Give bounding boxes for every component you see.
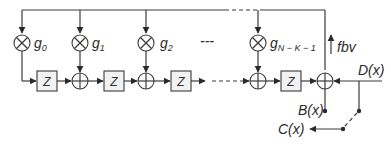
- multiplier-g0: g0: [14, 35, 47, 53]
- lfsr-diagram: g0 g1 g2 --- gN − K − 1 Z Z Z Z: [0, 0, 391, 144]
- label-g0: g0: [34, 35, 47, 53]
- delay-2: Z: [104, 71, 124, 91]
- adder-1: [72, 73, 88, 89]
- parity-label: B(x): [298, 102, 324, 118]
- input-label: D(x): [358, 62, 384, 78]
- output-label: C(x): [278, 121, 304, 137]
- multiplier-g1: g1: [72, 35, 105, 53]
- feedback-label: fbv: [337, 39, 357, 55]
- svg-text:Z: Z: [109, 75, 118, 89]
- adder-last: [250, 73, 266, 89]
- delay-last: Z: [281, 71, 301, 91]
- feedback-bus: [22, 10, 325, 70]
- adder-2: [138, 73, 154, 89]
- delay-3: Z: [171, 71, 191, 91]
- adder-feedback: [317, 73, 333, 89]
- multiplier-gNK1: gN − K − 1: [250, 35, 316, 53]
- switch-arm: [345, 113, 357, 126]
- label-gNK1: gN − K − 1: [270, 35, 316, 53]
- svg-text:Z: Z: [176, 75, 185, 89]
- svg-text:Z: Z: [286, 75, 295, 89]
- label-g2: g2: [160, 35, 173, 53]
- svg-text:Z: Z: [42, 75, 51, 89]
- delay-1: Z: [37, 71, 57, 91]
- ellipsis-middle: ---: [200, 33, 214, 49]
- label-g1: g1: [92, 35, 105, 53]
- multiplier-g2: g2: [138, 35, 173, 53]
